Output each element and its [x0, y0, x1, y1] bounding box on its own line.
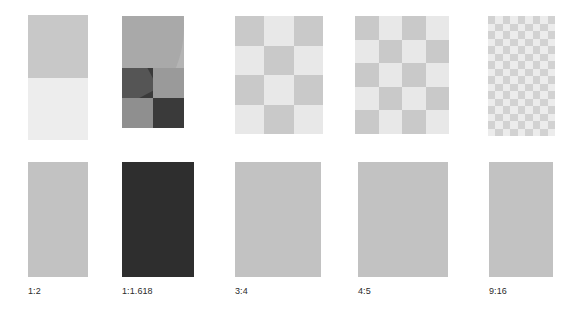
- checkerboard-cell: [379, 16, 403, 40]
- checkerboard-cell: [533, 84, 540, 92]
- checkerboard-cell: [379, 63, 403, 87]
- checkerboard-grid: [235, 16, 323, 134]
- ratio-label-ratio-4-5: 4:5: [358, 286, 371, 297]
- checkerboard-cell: [355, 40, 379, 64]
- checkerboard-cell: [355, 87, 379, 111]
- checkerboard-cell: [426, 87, 450, 111]
- checkerboard-cell: [540, 69, 547, 77]
- checkerboard-cell: [510, 16, 517, 24]
- checkerboard-cell: [548, 61, 555, 69]
- checkerboard-cell: [510, 129, 517, 137]
- checkerboard-cell: [548, 84, 555, 92]
- checkerboard-cell: [503, 69, 510, 77]
- checkerboard-cell: [518, 61, 525, 69]
- checkerboard-cell: [510, 69, 517, 77]
- checkerboard-cell: [533, 24, 540, 32]
- checkerboard-cell: [518, 31, 525, 39]
- checkerboard-cell: [426, 40, 450, 64]
- checkerboard-cell: [495, 69, 502, 77]
- checkerboard-cell: [525, 54, 532, 62]
- checkerboard-cell: [518, 129, 525, 137]
- checkerboard-cell: [548, 46, 555, 54]
- checkerboard-cell: [294, 105, 323, 135]
- checkerboard-cell: [495, 54, 502, 62]
- checkerboard-cell: [518, 84, 525, 92]
- checkerboard-cell: [495, 46, 502, 54]
- checkerboard-cell: [510, 99, 517, 107]
- checkerboard-cell: [510, 54, 517, 62]
- golden-quadrant-mid-right: [153, 68, 184, 98]
- half-split-bottom-band: [28, 78, 88, 141]
- checkerboard-cell: [540, 121, 547, 129]
- checkerboard-cell: [495, 16, 502, 24]
- checkerboard-cell: [548, 54, 555, 62]
- checkerboard-cell: [548, 16, 555, 24]
- checkerboard-cell: [488, 24, 495, 32]
- checkerboard-cell: [540, 99, 547, 107]
- checkerboard-cell: [402, 40, 426, 64]
- checkerboard-cell: [426, 16, 450, 40]
- golden-quadrant-top-right: [153, 16, 184, 68]
- checkerboard-cell: [518, 54, 525, 62]
- checkerboard-cell: [525, 121, 532, 129]
- demo-panel-ratio-1-2: [28, 15, 88, 140]
- checkerboard-cell: [488, 46, 495, 54]
- checkerboard-cell: [510, 114, 517, 122]
- checkerboard-cell: [495, 99, 502, 107]
- checkerboard-cell: [379, 40, 403, 64]
- checkerboard-cell: [533, 106, 540, 114]
- checkerboard-cell: [503, 24, 510, 32]
- checkerboard-cell: [533, 69, 540, 77]
- checkerboard-cell: [488, 61, 495, 69]
- checkerboard-cell: [495, 39, 502, 47]
- checkerboard-cell: [503, 46, 510, 54]
- checkerboard-grid: [355, 16, 449, 134]
- checkerboard-cell: [533, 16, 540, 24]
- checkerboard-cell: [495, 76, 502, 84]
- solid-swatch-ratio-1-2: [28, 162, 88, 277]
- checkerboard-cell: [540, 46, 547, 54]
- checkerboard-cell: [533, 114, 540, 122]
- checkerboard-cell: [548, 76, 555, 84]
- checkerboard-cell: [264, 105, 293, 135]
- checkerboard-cell: [548, 129, 555, 137]
- checkerboard-cell: [548, 121, 555, 129]
- checkerboard-cell: [488, 129, 495, 137]
- golden-quadrant-bottom-right: [153, 98, 184, 128]
- checkerboard-cell: [525, 106, 532, 114]
- checkerboard-cell: [540, 39, 547, 47]
- checkerboard-cell: [533, 46, 540, 54]
- golden-quadrant-mid-left: [122, 68, 153, 98]
- demo-panel-ratio-1-1618: [122, 16, 184, 128]
- checkerboard-cell: [533, 39, 540, 47]
- checkerboard-cell: [525, 91, 532, 99]
- checkerboard-cell: [548, 31, 555, 39]
- checkerboard-cell: [540, 76, 547, 84]
- checkerboard-cell: [525, 24, 532, 32]
- checkerboard-cell: [503, 84, 510, 92]
- checkerboard-cell: [510, 91, 517, 99]
- checkerboard-cell: [503, 121, 510, 129]
- checkerboard-cell: [533, 91, 540, 99]
- checkerboard-cell: [510, 46, 517, 54]
- checkerboard-cell: [518, 91, 525, 99]
- checkerboard-cell: [540, 129, 547, 137]
- ratio-label-ratio-3-4: 3:4: [235, 286, 248, 297]
- checkerboard-cell: [503, 106, 510, 114]
- checkerboard-cell: [548, 39, 555, 47]
- checkerboard-cell: [488, 106, 495, 114]
- checkerboard-cell: [540, 54, 547, 62]
- checkerboard-cell: [488, 69, 495, 77]
- checkerboard-cell: [518, 16, 525, 24]
- checkerboard-cell: [495, 114, 502, 122]
- ratio-label-ratio-9-16: 9:16: [489, 286, 507, 297]
- checkerboard-cell: [495, 129, 502, 137]
- checkerboard-cell: [533, 129, 540, 137]
- checkerboard-cell: [355, 110, 379, 134]
- checkerboard-cell: [488, 84, 495, 92]
- checkerboard-cell: [503, 114, 510, 122]
- checkerboard-cell: [264, 75, 293, 105]
- checkerboard-cell: [525, 39, 532, 47]
- checkerboard-cell: [264, 46, 293, 76]
- checkerboard-cell: [548, 99, 555, 107]
